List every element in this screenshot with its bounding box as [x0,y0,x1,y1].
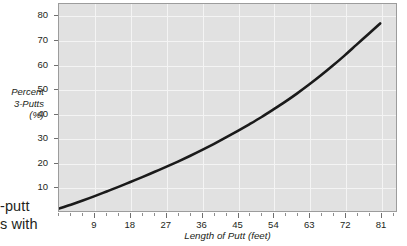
x-tick-mark-minor [297,213,298,216]
x-tick-mark-minor [321,213,322,216]
y-tick-mark [54,15,58,16]
x-tick-mark-minor [178,213,179,216]
x-tick-mark-major [202,213,203,218]
y-tick-label: 60 [6,59,48,70]
x-tick-mark-minor [70,213,71,216]
x-tick-mark-major [273,213,274,218]
x-tick-mark-major [345,213,346,218]
y-tick-mark [54,138,58,139]
y-tick-label: 80 [6,9,48,20]
x-tick-mark-minor [82,213,83,216]
x-tick-mark-minor [393,213,394,216]
y-tick-label: 70 [6,34,48,45]
plot-area [58,3,397,212]
x-tick-mark-major [238,213,239,218]
y-tick-mark [54,187,58,188]
data-series-line [59,4,396,211]
chart-figure: -putt s with Percent 3-Putts (%) 1020304… [0,0,407,246]
x-tick-mark-minor [106,213,107,216]
y-tick-label: 10 [6,181,48,192]
x-tick-mark-major [94,213,95,218]
y-tick-mark [54,40,58,41]
x-tick-mark-minor [190,213,191,216]
x-tick-mark-minor [154,213,155,216]
x-tick-label: 81 [366,219,396,230]
x-tick-mark-minor [285,213,286,216]
x-tick-mark-minor [214,213,215,216]
y-tick-label: 50 [6,83,48,94]
x-tick-mark-minor [226,213,227,216]
x-tick-mark-minor [369,213,370,216]
y-tick-label: 40 [6,108,48,119]
x-tick-label: 45 [223,219,253,230]
x-tick-mark-minor [333,213,334,216]
y-tick-label: 30 [6,132,48,143]
x-tick-mark-major [130,213,131,218]
y-tick-mark [54,163,58,164]
x-tick-label: 36 [187,219,217,230]
y-tick-mark [54,89,58,90]
x-tick-mark-minor [357,213,358,216]
x-axis-title: Length of Putt (feet) [58,230,397,241]
x-tick-mark-minor [142,213,143,216]
x-tick-mark-minor [249,213,250,216]
x-tick-label: 27 [151,219,181,230]
caption-fragment-line-1: -putt [0,198,30,214]
x-tick-mark-minor [58,213,59,216]
x-tick-mark-major [309,213,310,218]
x-tick-mark-minor [261,213,262,216]
y-tick-mark [54,65,58,66]
percent-3-putts-curve [59,23,380,208]
y-tick-mark [54,114,58,115]
x-tick-label: 63 [294,219,324,230]
caption-fragment-line-2: s with [0,216,38,232]
x-tick-mark-major [381,213,382,218]
x-tick-label: 72 [330,219,360,230]
x-tick-mark-major [166,213,167,218]
y-tick-label: 20 [6,157,48,168]
x-tick-label: 9 [79,219,109,230]
x-tick-label: 18 [115,219,145,230]
plot-inner [59,4,396,211]
x-tick-label: 54 [258,219,288,230]
x-tick-mark-minor [118,213,119,216]
